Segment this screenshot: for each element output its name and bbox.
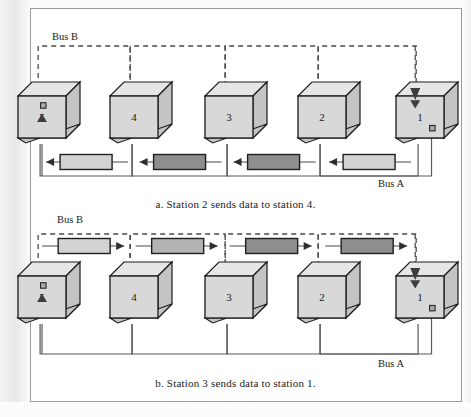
station-tap-connector (41, 103, 47, 109)
packet-body (248, 155, 300, 170)
packet-direction-arrow (46, 158, 54, 166)
station-3[interactable]: 3 (205, 262, 267, 323)
station-number-label: 4 (131, 291, 137, 303)
data-packet (136, 239, 218, 254)
data-packet (46, 155, 128, 170)
bus-a-label-panel-a: Bus A (378, 178, 404, 189)
station-5[interactable]: 5 (18, 262, 80, 323)
station-tap-connector (430, 305, 436, 311)
station-number-label: 1 (417, 291, 423, 303)
bus-a-line (40, 324, 132, 354)
station-number-label: 1 (417, 111, 423, 123)
station-4[interactable]: 4 (110, 82, 172, 143)
data-packet (329, 155, 411, 170)
station-number-label: 2 (319, 291, 325, 303)
packet-body (154, 155, 206, 170)
packet-body (246, 239, 298, 254)
station-tap-connector (41, 283, 47, 289)
packet-direction-arrow (399, 242, 407, 250)
packet-direction-arrow (304, 242, 312, 250)
station-4[interactable]: 4 (110, 262, 172, 323)
station-2[interactable]: 2 (298, 82, 360, 143)
station-number-label: 2 (319, 111, 325, 123)
station-2[interactable]: 2 (298, 262, 360, 323)
station-tap-connector (430, 125, 436, 130)
bus-b-label-panel-a: Bus B (52, 31, 78, 42)
packet-body (58, 239, 110, 254)
bus-a-label-panel-b: Bus A (378, 358, 404, 369)
packet-body (152, 239, 204, 254)
data-packet (42, 239, 124, 254)
station-1[interactable]: 1 (396, 262, 458, 323)
station-number-label: 4 (131, 111, 137, 123)
panel-a-caption: a. Station 2 sends data to station 4. (0, 198, 471, 210)
station-number-label: 3 (226, 111, 232, 123)
bus-a-line (132, 324, 227, 354)
data-packet (230, 239, 312, 254)
packet-direction-arrow (234, 158, 242, 166)
packet-direction-arrow (116, 242, 124, 250)
data-packet (234, 155, 316, 170)
bus-a-line (320, 324, 418, 354)
data-packet (140, 155, 222, 170)
station-3[interactable]: 3 (205, 82, 267, 143)
packet-body (341, 239, 393, 254)
packet-body (343, 155, 395, 170)
page-margin-bottom (0, 402, 471, 417)
station-number-label: 3 (226, 291, 232, 303)
data-packet (325, 239, 407, 254)
bus-b-label-panel-b: Bus B (57, 214, 83, 225)
panel-b-caption: b. Station 3 sends data to station 1. (0, 377, 471, 389)
station-1[interactable]: 1 (396, 82, 458, 143)
packet-direction-arrow (140, 158, 148, 166)
packet-body (60, 155, 112, 170)
bus-a-line (227, 324, 320, 354)
packet-direction-arrow (210, 242, 218, 250)
station-5[interactable]: 5 (18, 82, 80, 143)
packet-direction-arrow (329, 158, 337, 166)
